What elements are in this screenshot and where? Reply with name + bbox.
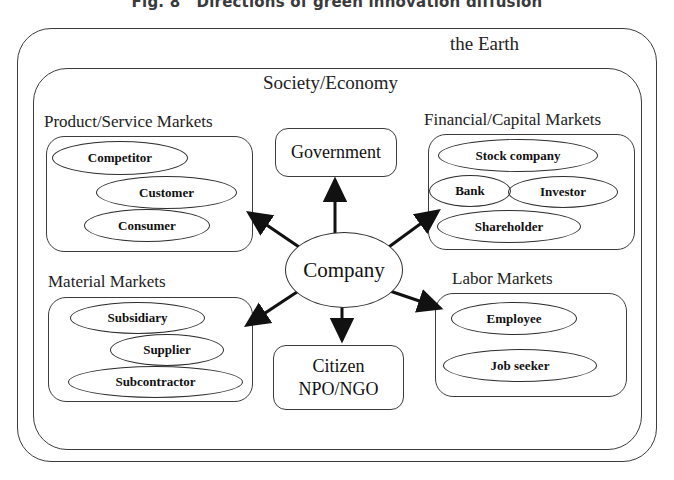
figure-canvas: Fig. 8 Directions of green innovation di… [0,0,674,480]
node-company[interactable]: Company [285,232,403,308]
arrow-company-to-labor [387,290,440,308]
arrow-company-to-material [247,290,300,325]
node-company-label: Company [303,258,385,283]
arrow-company-to-product-service [249,213,302,249]
arrow-company-to-financial-capital [386,211,438,249]
